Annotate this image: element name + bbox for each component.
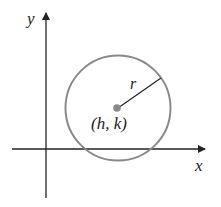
x-axis-label: x [194, 156, 203, 175]
circle-diagram: y x r (h, k) [0, 0, 221, 207]
center-label: (h, k) [91, 114, 127, 133]
center-point [113, 104, 121, 112]
radius-line [118, 78, 161, 108]
radius-label: r [130, 75, 137, 92]
y-axis-label: y [25, 9, 35, 28]
